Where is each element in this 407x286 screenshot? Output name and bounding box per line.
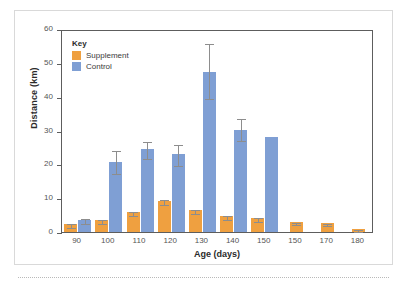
error-bar [241, 119, 242, 142]
error-bar-cap [143, 142, 152, 143]
x-tick-label: 150 [247, 236, 281, 245]
y-tick-label: 50 [15, 58, 59, 69]
y-tick-mark [57, 98, 62, 99]
error-bar [209, 44, 210, 99]
error-bar-cap [223, 220, 232, 221]
plot-area: Key Supplement Control [61, 30, 373, 233]
x-tick-label: 110 [122, 236, 156, 245]
x-tick-label: 140 [216, 236, 250, 245]
error-bar-cap [98, 220, 107, 221]
error-bar-cap [98, 224, 107, 225]
error-bar-cap [205, 44, 214, 45]
y-tick-label: 60 [15, 24, 59, 35]
y-tick-mark [57, 30, 62, 31]
x-tick-label: 150 [278, 236, 312, 245]
y-tick-label: 40 [15, 92, 59, 103]
x-axis-title: Age (days) [61, 249, 373, 259]
error-bar-cap [160, 205, 169, 206]
error-bar [116, 151, 117, 174]
error-bar-cap [129, 216, 138, 217]
legend-item-supplement: Supplement [72, 51, 129, 60]
legend-swatch-supplement [72, 51, 81, 60]
y-tick-mark [57, 165, 62, 166]
error-bar-cap [254, 218, 263, 219]
error-bar-cap [129, 212, 138, 213]
error-bar-cap [292, 223, 301, 224]
error-bar-cap [67, 224, 76, 225]
bar-control-110 [141, 149, 154, 232]
error-bar-cap [81, 219, 90, 220]
error-bar-cap [112, 174, 121, 175]
error-bar-cap [174, 166, 183, 167]
error-bar [178, 145, 179, 166]
y-tick-mark [57, 132, 62, 133]
bar-control-150 [265, 137, 278, 232]
error-bar-cap [143, 159, 152, 160]
error-bar-cap [323, 224, 332, 225]
error-bar-cap [323, 226, 332, 227]
error-bar-cap [354, 230, 363, 231]
y-tick-mark [57, 199, 62, 200]
bar-control-140 [234, 130, 247, 232]
x-tick-label: 170 [309, 236, 343, 245]
legend-label-supplement: Supplement [86, 51, 129, 60]
y-tick-label: 30 [15, 126, 59, 137]
x-tick-label: 90 [60, 236, 94, 245]
bar-chart: Distance (km) Key Supplement Control 010… [15, 11, 392, 264]
x-tick-label: 180 [340, 236, 374, 245]
error-bar-cap [354, 232, 363, 233]
legend-swatch-control [72, 62, 81, 71]
legend-title: Key [72, 39, 129, 48]
x-tick-label: 130 [184, 236, 218, 245]
error-bar-cap [191, 214, 200, 215]
error-bar-cap [112, 151, 121, 152]
error-bar-cap [292, 225, 301, 226]
error-bar-cap [223, 216, 232, 217]
error-bar-cap [237, 141, 246, 142]
y-tick-mark [57, 233, 62, 234]
error-bar-cap [191, 210, 200, 211]
error-bar-cap [205, 99, 214, 100]
chart-legend: Key Supplement Control [72, 39, 129, 73]
y-tick-label: 20 [15, 159, 59, 170]
error-bar-cap [254, 222, 263, 223]
error-bar-cap [67, 228, 76, 229]
figure-card: Distance (km) Key Supplement Control 010… [14, 10, 393, 265]
y-tick-label: 0 [15, 227, 59, 238]
x-tick-label: 120 [153, 236, 187, 245]
error-bar [147, 142, 148, 160]
page-divider [18, 277, 389, 279]
legend-item-control: Control [72, 62, 129, 71]
error-bar-cap [81, 224, 90, 225]
error-bar-cap [237, 119, 246, 120]
y-tick-mark [57, 64, 62, 65]
error-bar-cap [160, 200, 169, 201]
error-bar-cap [174, 145, 183, 146]
x-tick-label: 100 [91, 236, 125, 245]
legend-label-control: Control [86, 62, 112, 71]
y-tick-label: 10 [15, 193, 59, 204]
